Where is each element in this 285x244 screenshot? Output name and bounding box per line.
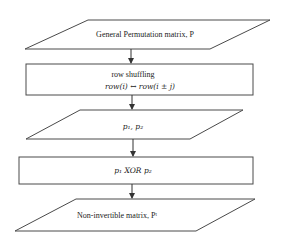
- node-label: p₁ XOR p₂: [114, 166, 151, 175]
- node-label: row shuffling: [111, 70, 154, 79]
- node-label: p₁, p₂: [123, 122, 143, 131]
- arrow-head-icon: [129, 193, 135, 199]
- node-label: General Permutation matrix, P: [96, 30, 194, 39]
- node-label: Non-invertible matrix, Pᵗ: [77, 211, 157, 220]
- arrow-head-icon: [129, 104, 135, 110]
- flowchart-canvas: General Permutation matrix, P row shuffl…: [0, 0, 285, 244]
- node-non-invertible-matrix: Non-invertible matrix, Pᵗ: [15, 199, 255, 231]
- arrow-head-icon: [130, 151, 136, 157]
- node-row-shuffling: row shuffling row(i) ↔ row(i ± j): [26, 64, 253, 95]
- arrow-head-icon: [128, 58, 134, 64]
- node-sublabel: row(i) ↔ row(i ± j): [105, 82, 175, 91]
- node-general-permutation-matrix: General Permutation matrix, P: [25, 20, 270, 49]
- node-xor: p₁ XOR p₂: [19, 157, 253, 184]
- node-p1-p2: p₁, p₂: [26, 110, 243, 139]
